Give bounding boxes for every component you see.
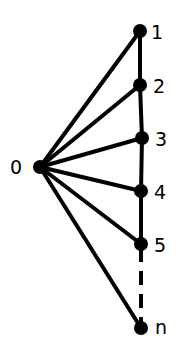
fan-graph-diagram: 012345n (0, 0, 185, 362)
node-label-5: 5 (154, 234, 166, 256)
edge-0-n (40, 167, 141, 328)
node-5 (134, 237, 148, 251)
node-label-0: 0 (10, 156, 22, 178)
node-n (134, 321, 148, 335)
node-1 (133, 24, 147, 38)
node-label-3: 3 (155, 128, 167, 150)
node-2 (133, 78, 147, 92)
node-0 (33, 160, 47, 174)
node-label-2: 2 (153, 75, 165, 97)
node-label-1: 1 (151, 21, 163, 43)
node-label-4: 4 (154, 181, 166, 203)
node-3 (135, 131, 149, 145)
node-4 (134, 184, 148, 198)
edge-3-4 (141, 138, 142, 191)
edges-group (40, 31, 142, 328)
edge-2-3 (140, 85, 142, 138)
node-label-n: n (155, 316, 167, 338)
